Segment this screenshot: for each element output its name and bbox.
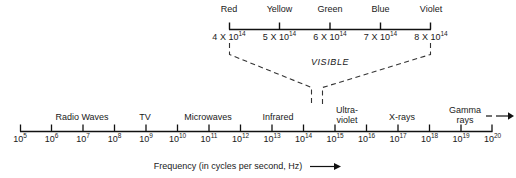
multiply-sign: X bbox=[321, 32, 327, 42]
visible-band-label: VISIBLE bbox=[311, 58, 349, 67]
exponent: 14 bbox=[289, 30, 296, 37]
tick-label-10e13: 1013 bbox=[263, 135, 280, 144]
tick-label-10e7: 107 bbox=[76, 135, 90, 144]
band-label-ultraviolet-line1: Ultra- bbox=[336, 105, 358, 115]
base: 10 bbox=[139, 134, 149, 144]
multiply-sign: X bbox=[371, 32, 377, 42]
visible-spectrum-axis bbox=[229, 23, 431, 30]
color-label-blue: Blue bbox=[371, 5, 389, 14]
base: 10 bbox=[430, 32, 440, 42]
visible-freq-value-green: 6 X 1014 bbox=[313, 33, 346, 42]
band-label-tv: TV bbox=[139, 112, 151, 122]
tick-label-10e5: 105 bbox=[13, 135, 27, 144]
exponent: 5 bbox=[23, 132, 27, 139]
mantissa: 7 bbox=[364, 32, 369, 42]
mantissa: 4 bbox=[212, 32, 217, 42]
exponent: 9 bbox=[149, 132, 153, 139]
base: 10 bbox=[76, 134, 86, 144]
exponent: 14 bbox=[339, 30, 346, 37]
base: 10 bbox=[201, 134, 211, 144]
frequency-axis bbox=[20, 125, 493, 132]
tick-label-10e14: 1014 bbox=[295, 135, 312, 144]
exponent: 13 bbox=[273, 132, 280, 139]
visible-band-callout bbox=[230, 43, 431, 104]
exponent: 6 bbox=[55, 132, 59, 139]
base: 10 bbox=[108, 134, 118, 144]
visible-freq-value-violet: 8 X 1014 bbox=[414, 33, 447, 42]
color-label-violet: Violet bbox=[420, 5, 442, 14]
base: 10 bbox=[232, 134, 242, 144]
band-label-ultraviolet: Ultra- violet bbox=[336, 105, 358, 125]
exponent: 14 bbox=[390, 30, 397, 37]
band-label-ultraviolet-line2: violet bbox=[336, 115, 357, 125]
axis-caption: Frequency (in cycles per second, Hz) bbox=[154, 162, 303, 171]
tick-label-10e10: 1010 bbox=[169, 135, 186, 144]
band-label-microwaves: Microwaves bbox=[184, 112, 232, 122]
tick-label-10e9: 109 bbox=[139, 135, 153, 144]
base: 10 bbox=[228, 32, 238, 42]
color-label-yellow: Yellow bbox=[267, 5, 293, 14]
caption-arrow bbox=[310, 163, 341, 170]
color-label-green: Green bbox=[317, 5, 342, 14]
tick-label-10e16: 1016 bbox=[358, 135, 375, 144]
visible-freq-value-blue: 7 X 1014 bbox=[364, 33, 397, 42]
exponent: 14 bbox=[305, 132, 312, 139]
tick-label-10e12: 1012 bbox=[232, 135, 249, 144]
base: 10 bbox=[358, 134, 368, 144]
visible-freq-value-yellow: 5 X 1014 bbox=[263, 33, 296, 42]
visible-freq-value-red: 4 X 1014 bbox=[212, 33, 245, 42]
exponent: 19 bbox=[462, 132, 469, 139]
tick-label-10e18: 1018 bbox=[421, 135, 438, 144]
electromagnetic-spectrum-figure: Red Yellow Green Blue Violet 4 X 1014 5 … bbox=[0, 0, 516, 178]
color-label-red: Red bbox=[221, 5, 238, 14]
exponent: 11 bbox=[211, 132, 218, 139]
base: 10 bbox=[452, 134, 462, 144]
mantissa: 6 bbox=[313, 32, 318, 42]
base: 10 bbox=[295, 134, 305, 144]
exponent: 10 bbox=[179, 132, 186, 139]
exponent: 8 bbox=[118, 132, 122, 139]
mantissa: 8 bbox=[414, 32, 419, 42]
band-label-gamma-rays-line2: rays bbox=[456, 115, 473, 125]
exponent: 14 bbox=[238, 30, 245, 37]
band-label-x-rays: X-rays bbox=[389, 112, 415, 122]
base: 10 bbox=[326, 134, 336, 144]
base: 10 bbox=[389, 134, 399, 144]
base: 10 bbox=[263, 134, 273, 144]
band-label-infrared: Infrared bbox=[262, 112, 293, 122]
base: 10 bbox=[421, 134, 431, 144]
exponent: 12 bbox=[242, 132, 249, 139]
spectrum-continues-arrow bbox=[486, 112, 514, 120]
base: 10 bbox=[380, 32, 390, 42]
mantissa: 5 bbox=[263, 32, 268, 42]
tick-label-10e15: 1015 bbox=[326, 135, 343, 144]
exponent: 7 bbox=[86, 132, 90, 139]
tick-label-10e6: 106 bbox=[45, 135, 59, 144]
exponent: 20 bbox=[494, 132, 501, 139]
base: 10 bbox=[279, 32, 289, 42]
tick-label-10e20: 1020 bbox=[484, 135, 501, 144]
spectrum-vector-layer bbox=[0, 0, 516, 178]
exponent: 14 bbox=[440, 30, 447, 37]
exponent: 18 bbox=[431, 132, 438, 139]
band-label-gamma-rays-line1: Gamma bbox=[449, 105, 481, 115]
base: 10 bbox=[169, 134, 179, 144]
base: 10 bbox=[13, 134, 23, 144]
exponent: 15 bbox=[336, 132, 343, 139]
multiply-sign: X bbox=[220, 32, 226, 42]
base: 10 bbox=[45, 134, 55, 144]
tick-label-10e11: 1011 bbox=[201, 135, 218, 144]
tick-label-10e19: 1019 bbox=[452, 135, 469, 144]
band-label-radio-waves: Radio Waves bbox=[55, 112, 108, 122]
base: 10 bbox=[329, 32, 339, 42]
exponent: 16 bbox=[368, 132, 375, 139]
band-label-gamma-rays: Gamma rays bbox=[449, 105, 481, 125]
base: 10 bbox=[484, 134, 494, 144]
exponent: 17 bbox=[399, 132, 406, 139]
tick-label-10e8: 108 bbox=[108, 135, 122, 144]
multiply-sign: X bbox=[422, 32, 428, 42]
tick-label-10e17: 1017 bbox=[389, 135, 406, 144]
multiply-sign: X bbox=[270, 32, 276, 42]
